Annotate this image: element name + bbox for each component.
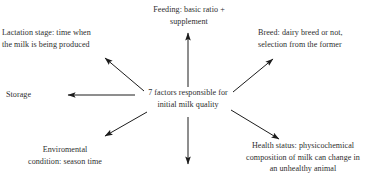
arrow-to-health-status [231,110,279,139]
node-health-status-label: Health status: physicochemical compositi… [228,140,378,175]
arrow-to-environmental-condition [105,112,147,136]
node-environmental-condition-label: Enviromental condition: season time [4,144,126,167]
factors-milk-quality-diagram: 7 factors responsible for initial milk q… [0,0,380,183]
center-node-label: 7 factors responsible for initial milk q… [126,87,250,110]
node-feeding-label: Feeding: basic ratio + supplement [128,4,250,27]
node-breed-label: Breed: dairy breed or not, selection fro… [258,27,378,50]
node-lactation-stage-label: Lactation stage: time when the milk is b… [2,27,124,50]
node-storage-label: Storage [6,89,66,101]
